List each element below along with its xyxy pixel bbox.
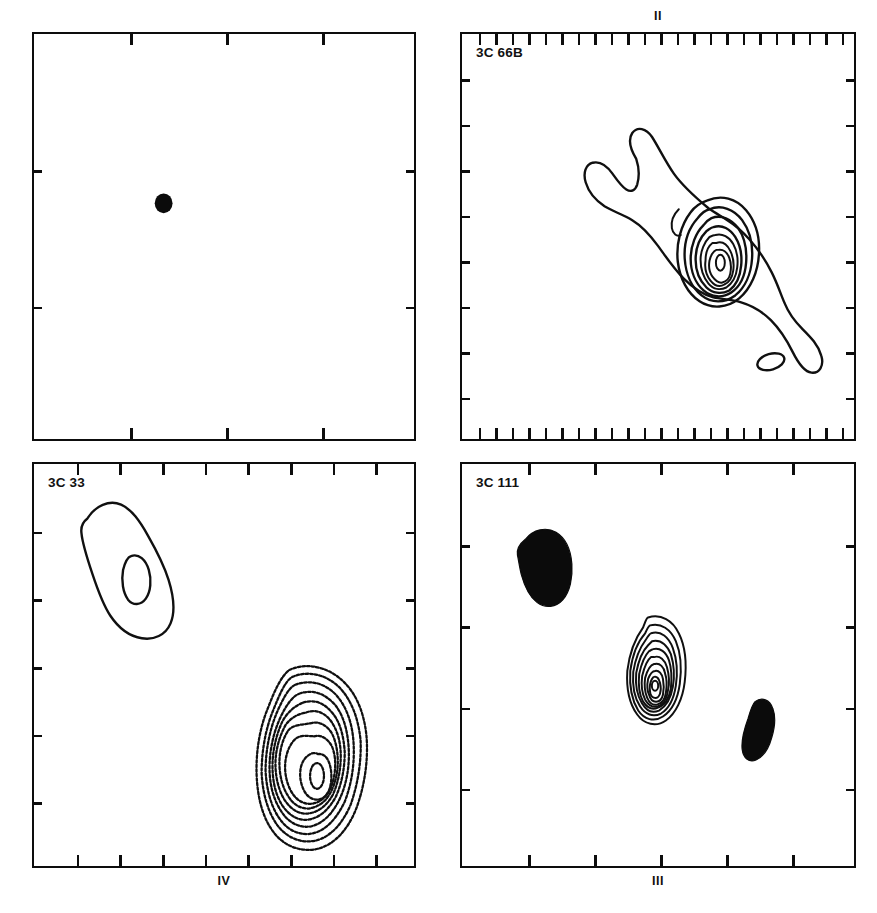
axis-tick-right — [846, 352, 854, 355]
axis-tick-left — [34, 307, 42, 310]
axis-tick-left — [34, 735, 42, 738]
southern-lobe-contour-level-1 — [257, 666, 367, 850]
axis-tick-left — [462, 125, 470, 128]
axis-tick-top — [247, 464, 250, 475]
axis-tick-bottom — [545, 428, 548, 439]
panel-bottom-right-plot-area: 3C 111 — [462, 464, 854, 866]
panel-top-right-source-label: 3C 66B — [476, 45, 523, 60]
axis-tick-top — [226, 34, 229, 45]
axis-tick-top — [677, 34, 680, 45]
axis-tick-top — [710, 34, 713, 45]
axis-tick-top — [726, 464, 729, 475]
north-west-lobe-filled — [517, 529, 572, 606]
panel-top-right-caption: II — [460, 9, 856, 23]
axis-tick-top — [495, 34, 498, 45]
panel-bottom-right: 3C 111 — [460, 462, 856, 868]
axis-tick-bottom — [119, 855, 122, 866]
axis-tick-bottom — [759, 428, 762, 439]
axis-tick-right — [846, 708, 854, 711]
axis-tick-bottom — [226, 428, 229, 439]
axis-tick-top — [842, 34, 845, 45]
axis-tick-top — [528, 464, 531, 475]
panel-bottom-left-caption: IV — [32, 874, 416, 888]
axis-tick-bottom — [825, 428, 828, 439]
axis-tick-top — [479, 34, 482, 45]
axis-tick-bottom — [130, 428, 133, 439]
axis-tick-left — [462, 789, 470, 792]
axis-tick-bottom — [512, 428, 515, 439]
core-contour-peak — [652, 681, 658, 691]
axis-tick-top — [611, 34, 614, 45]
axis-tick-top — [512, 34, 515, 45]
axis-tick-bottom — [495, 428, 498, 439]
axis-tick-left — [462, 216, 470, 219]
axis-tick-right — [846, 398, 854, 401]
core-contour-level-7 — [645, 664, 667, 705]
axis-tick-right — [846, 545, 854, 548]
axis-tick-bottom — [726, 428, 729, 439]
panel-bottom-left: 3C 33 — [32, 462, 416, 868]
axis-tick-bottom — [322, 428, 325, 439]
southern-lobe-contour-level-7 — [279, 723, 337, 809]
axis-tick-bottom — [247, 855, 250, 866]
axis-tick-bottom — [726, 855, 729, 866]
axis-tick-right — [406, 170, 414, 173]
axis-tick-bottom — [792, 428, 795, 439]
southern-lobe-contour-level-8 — [285, 736, 335, 804]
core-contour-level-3 — [691, 217, 747, 297]
axis-tick-top — [290, 464, 293, 475]
axis-tick-bottom — [627, 428, 630, 439]
axis-tick-bottom — [842, 428, 845, 439]
axis-tick-left — [462, 352, 470, 355]
core-contour-level-2 — [630, 625, 681, 720]
axis-tick-bottom — [776, 428, 779, 439]
axis-tick-top — [322, 34, 325, 45]
axis-tick-top — [660, 464, 663, 475]
southern-lobe-contour-level-4 — [270, 692, 349, 827]
axis-tick-top — [594, 34, 597, 45]
axis-tick-top — [809, 34, 812, 45]
axis-tick-bottom — [290, 855, 293, 866]
core-contour-level-5 — [639, 649, 672, 709]
axis-tick-right — [846, 307, 854, 310]
core-contour-peak — [716, 255, 725, 271]
southern-lobe-contour-level-2 — [262, 674, 361, 842]
axis-tick-bottom — [693, 428, 696, 439]
axis-tick-left — [462, 708, 470, 711]
core-contour-level-9 — [650, 677, 661, 698]
axis-tick-right — [846, 626, 854, 629]
core-contour-level-8 — [647, 671, 663, 702]
panel-bottom-left-plot-area: 3C 33 — [34, 464, 414, 866]
axis-tick-top — [528, 34, 531, 45]
axis-tick-left — [462, 307, 470, 310]
axis-tick-bottom — [528, 428, 531, 439]
axis-tick-bottom — [677, 428, 680, 439]
axis-tick-left — [462, 398, 470, 401]
panel-bottom-right-source-label: 3C 111 — [476, 475, 519, 490]
axis-tick-bottom — [77, 855, 80, 866]
axis-tick-top — [119, 464, 122, 475]
core-contour-level-4 — [636, 641, 674, 712]
axis-tick-right — [846, 170, 854, 173]
axis-tick-bottom — [809, 428, 812, 439]
axis-tick-bottom — [205, 855, 208, 866]
core-notch-contour — [672, 209, 681, 235]
axis-tick-top — [594, 464, 597, 475]
axis-tick-bottom — [578, 428, 581, 439]
core-contour-level-4 — [696, 226, 742, 293]
panel-top-left-contours — [34, 34, 414, 439]
axis-tick-left — [34, 802, 42, 805]
axis-tick-right — [846, 125, 854, 128]
axis-tick-left — [462, 79, 470, 82]
southern-lobe-contour-level-5 — [272, 701, 344, 820]
axis-tick-top — [205, 464, 208, 475]
axis-tick-left — [34, 667, 42, 670]
axis-tick-bottom — [644, 428, 647, 439]
axis-tick-top — [162, 464, 165, 475]
axis-tick-right — [406, 667, 414, 670]
axis-tick-top — [792, 464, 795, 475]
axis-tick-right — [406, 735, 414, 738]
panel-bottom-left-source-label: 3C 33 — [48, 475, 85, 490]
axis-tick-top — [77, 464, 80, 475]
point-source-marker — [155, 193, 173, 213]
